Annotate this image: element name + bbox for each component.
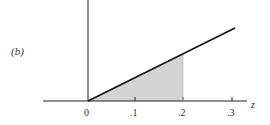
tick-label-0-1: .1 — [130, 108, 138, 118]
tick-label-0-2: .2 — [178, 108, 186, 118]
tick-label-0-3: .3 — [227, 108, 235, 118]
x-axis-label: z — [251, 100, 255, 110]
tick-label-0: 0 — [84, 108, 89, 118]
panel-label: (b) — [11, 46, 24, 57]
